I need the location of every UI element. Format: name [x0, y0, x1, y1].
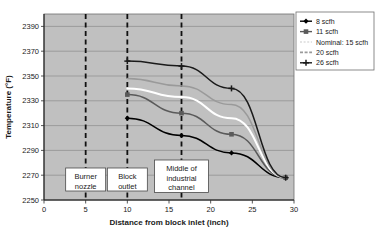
annotation-burner-nozzle: Burnernozzle: [66, 168, 106, 191]
legend-label: Nominal: 15 scfh: [316, 39, 368, 46]
annotation-middle-industrial-channel: Middle ofindustrialchannel: [155, 160, 209, 193]
annotation-label-block-outlet: outlet: [118, 182, 137, 191]
annotation-label-burner-nozzle: Burner: [74, 172, 97, 181]
y-axis-tick-label: 2370: [22, 47, 39, 56]
y-axis-tick-label: 2290: [22, 146, 39, 155]
data-marker-square: [179, 111, 184, 116]
annotation-label-burner-nozzle: nozzle: [75, 182, 97, 191]
figure-container: 2250227022902310233023502370239005101520…: [0, 0, 375, 243]
annotation-label-block-outlet: Block: [118, 172, 137, 181]
legend-label: 8 scfh: [316, 18, 335, 25]
y-axis-tick-label: 2310: [22, 121, 39, 130]
legend-label: 11 scfh: [316, 28, 338, 35]
annotation-label-middle-industrial-channel: channel: [168, 183, 195, 192]
x-axis-tick-label: 25: [248, 205, 256, 214]
annotation-label-middle-industrial-channel: industrial: [166, 174, 196, 183]
x-axis-tick-label: 10: [123, 205, 131, 214]
legend: 8 scfh11 scfhNominal: 15 scfh20 scfh26 s…: [296, 12, 374, 70]
x-axis-tick-label: 0: [42, 205, 46, 214]
annotation-block-outlet: Blockoutlet: [107, 168, 147, 191]
data-marker-square: [125, 92, 130, 97]
legend-label: 26 scfh: [316, 59, 339, 66]
x-axis-tick-label: 5: [84, 205, 88, 214]
temperature-profile-chart: 2250227022902310233023502370239005101520…: [0, 0, 375, 243]
data-marker-square: [304, 29, 309, 34]
y-axis-title: Temperature (°F): [4, 75, 13, 139]
y-axis-tick-label: 2330: [22, 96, 39, 105]
x-axis-tick-label: 15: [165, 205, 173, 214]
annotation-label-middle-industrial-channel: Middle of: [166, 164, 197, 173]
x-axis-title: Distance from block inlet (inch): [109, 218, 228, 227]
y-axis-tick-label: 2250: [22, 196, 39, 205]
x-axis-tick-label: 20: [206, 205, 214, 214]
legend-label: 20 scfh: [316, 49, 339, 56]
x-axis-tick-label: 30: [290, 205, 298, 214]
data-marker-square: [229, 132, 234, 137]
y-axis-tick-label: 2350: [22, 72, 39, 81]
y-axis-tick-label: 2270: [22, 171, 39, 180]
y-axis-tick-label: 2390: [22, 22, 39, 31]
